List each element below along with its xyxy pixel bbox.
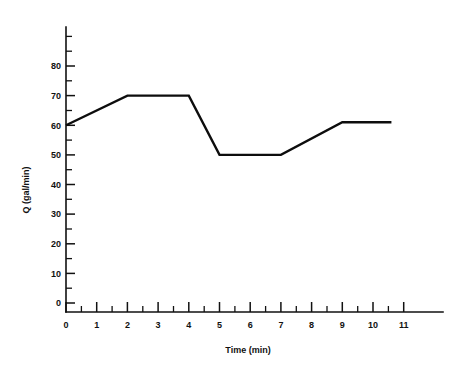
y-tick-label-80: 80 xyxy=(51,61,61,71)
x-tick-label-4: 4 xyxy=(186,320,191,330)
x-tick-label-8: 8 xyxy=(309,320,314,330)
x-tick-label-0: 0 xyxy=(63,320,68,330)
y-tick-label-40: 40 xyxy=(51,180,61,190)
x-tick-label-10: 10 xyxy=(368,320,378,330)
y-tick-label-20: 20 xyxy=(51,239,61,249)
x-axis-title: Time (min) xyxy=(225,345,270,355)
chart-page: 0 10 20 30 40 50 60 70 80 Q (gal/min) xyxy=(0,0,465,371)
x-tick-label-11: 11 xyxy=(399,320,409,330)
x-tick-label-3: 3 xyxy=(156,320,161,330)
line-chart: 0 10 20 30 40 50 60 70 80 Q (gal/min) xyxy=(0,0,465,371)
y-tick-label-0: 0 xyxy=(56,298,61,308)
x-tick-label-5: 5 xyxy=(217,320,222,330)
y-axis-title: Q (gal/min) xyxy=(21,166,31,213)
y-tick-label-30: 30 xyxy=(51,209,61,219)
y-axis-minor-ticks xyxy=(66,36,72,288)
y-axis-major-ticks xyxy=(66,66,75,303)
data-series-q xyxy=(66,96,391,155)
y-tick-label-10: 10 xyxy=(51,269,61,279)
y-tick-label-60: 60 xyxy=(51,121,61,131)
x-tick-label-7: 7 xyxy=(278,320,283,330)
y-axis-tick-labels: 0 10 20 30 40 50 60 70 80 xyxy=(51,61,61,308)
x-axis-tick-labels: 0 1 2 3 4 5 6 7 8 9 10 11 xyxy=(63,320,408,330)
y-tick-label-70: 70 xyxy=(51,91,61,101)
x-tick-label-1: 1 xyxy=(94,320,99,330)
x-tick-label-9: 9 xyxy=(340,320,345,330)
x-tick-label-6: 6 xyxy=(248,320,253,330)
y-tick-label-50: 50 xyxy=(51,150,61,160)
x-tick-label-2: 2 xyxy=(125,320,130,330)
